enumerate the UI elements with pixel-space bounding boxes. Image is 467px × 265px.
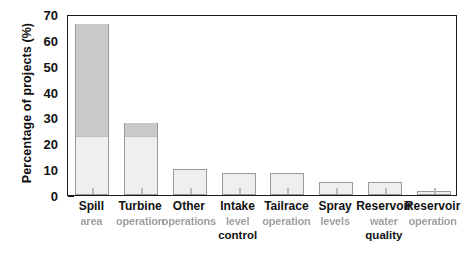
y-tick-label: 60 bbox=[28, 34, 58, 49]
x-label-line-3: control bbox=[206, 228, 269, 243]
bar bbox=[417, 191, 451, 195]
x-label-line-1: Tailrace bbox=[264, 199, 308, 213]
bar bbox=[319, 182, 353, 195]
bar-base-mark bbox=[239, 188, 241, 194]
x-label-line-1: Turbine bbox=[119, 199, 162, 213]
bar bbox=[368, 182, 402, 195]
bar-chart-figure: Percentage of projects (%) 0102030405060… bbox=[0, 0, 467, 265]
plot-area bbox=[67, 15, 457, 196]
bar-base-mark bbox=[434, 188, 436, 194]
x-axis-labels: SpillareaTurbineoperationOtheroperations… bbox=[67, 199, 457, 265]
y-tick-label: 30 bbox=[28, 111, 58, 126]
x-label-line-1: Reservoir bbox=[405, 199, 460, 213]
y-tick-label: 10 bbox=[28, 163, 58, 178]
x-label-line-1: Intake bbox=[220, 199, 255, 213]
y-tick-label: 70 bbox=[28, 8, 58, 23]
bar bbox=[124, 123, 158, 195]
x-axis-category-label: Reservoiroperation bbox=[401, 199, 464, 228]
x-label-line-1: Spray bbox=[318, 199, 351, 213]
y-tick-label: 40 bbox=[28, 86, 58, 101]
x-label-line-1: Spill bbox=[79, 199, 104, 213]
bar-upper-segment bbox=[76, 24, 108, 137]
bar bbox=[270, 173, 304, 195]
y-tick-major bbox=[68, 196, 74, 197]
x-label-line-2: operation bbox=[401, 214, 464, 229]
x-label-line-3: quality bbox=[353, 228, 416, 243]
bar-base-mark bbox=[385, 188, 387, 194]
y-tick-label: 0 bbox=[28, 189, 58, 204]
y-tick-label: 50 bbox=[28, 60, 58, 75]
bar bbox=[222, 173, 256, 195]
bar-base-mark bbox=[336, 188, 338, 194]
bar-base-mark bbox=[287, 188, 289, 194]
bar bbox=[75, 24, 109, 195]
bar-base-mark bbox=[141, 188, 143, 194]
y-tick-label: 20 bbox=[28, 137, 58, 152]
y-axis-ticks: 010203040506070 bbox=[0, 0, 67, 265]
bar-upper-segment bbox=[125, 123, 157, 138]
x-label-line-1: Other bbox=[173, 199, 205, 213]
bar-base-mark bbox=[190, 188, 192, 194]
bar-base-mark bbox=[92, 188, 94, 194]
bar bbox=[173, 169, 207, 195]
